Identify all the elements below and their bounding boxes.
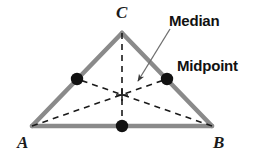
midpoint-dot-BC: [161, 73, 173, 85]
midpoint-dot-AB: [116, 120, 128, 132]
vertex-label-c: C: [116, 4, 127, 21]
centroid-marker: [116, 89, 128, 101]
median-lines: [32, 33, 212, 126]
triangle-median-diagram: C A B Median Midpoint: [0, 0, 262, 166]
vertex-label-a: A: [17, 134, 28, 151]
callout-label-median: Median: [169, 13, 219, 28]
vertex-label-b: B: [213, 134, 224, 151]
callout-label-midpoint: Midpoint: [177, 58, 238, 73]
midpoint-dot-AC: [71, 73, 83, 85]
